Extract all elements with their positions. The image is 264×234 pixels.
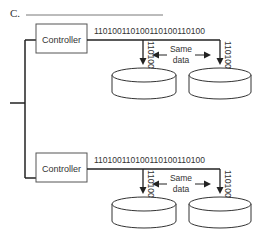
bitstream: 110100110100110100110100 (94, 155, 205, 165)
controller-group-1: Controller 110100110100110100110100 1101… (25, 24, 251, 99)
question-label: C. (10, 7, 20, 19)
data-label: data (173, 184, 190, 194)
same-label: Same (170, 44, 192, 54)
same-label: Same (170, 173, 192, 183)
arrow-right-icon (204, 52, 211, 59)
mirroring-diagram: C. Controller 110100110100110100110100 1… (0, 0, 264, 234)
arrow-down-icon (140, 187, 147, 194)
disk-icon (189, 68, 251, 99)
controller-label: Controller (42, 164, 81, 174)
controller-group-2: Controller 110100110100110100110100 1101… (25, 153, 251, 228)
data-label: data (173, 55, 190, 65)
arrow-down-icon (140, 58, 147, 65)
arrow-down-icon (217, 58, 224, 65)
disk-icon (112, 68, 176, 99)
arrow-down-icon (217, 187, 224, 194)
controller-label: Controller (42, 35, 81, 45)
disk-icon (189, 197, 251, 228)
disk-bits-2: 110100 (223, 41, 233, 69)
arrow-right-icon (204, 181, 211, 188)
disk-icon (112, 197, 176, 228)
bitstream: 110100110100110100110100 (94, 26, 205, 36)
disk-bits-2: 110100 (223, 170, 233, 198)
